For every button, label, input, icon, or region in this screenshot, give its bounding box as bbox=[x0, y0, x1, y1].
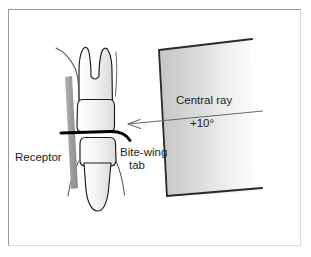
angulation-label: +10° bbox=[190, 117, 214, 129]
lower-molar-root bbox=[84, 163, 111, 211]
upper-gum-line-right bbox=[116, 52, 117, 96]
lower-molar-crown bbox=[80, 138, 116, 167]
bitewing-tab-label-line1: Bite-wing bbox=[120, 146, 167, 158]
central-ray-label: Central ray bbox=[176, 94, 232, 106]
upper-molar-roots bbox=[79, 47, 113, 106]
upper-molar-crown bbox=[77, 100, 115, 133]
bitewing-technique-figure: Receptor Bite-wing tab Central ray +10° bbox=[0, 0, 311, 257]
figure-illustration: Receptor Bite-wing tab Central ray +10° bbox=[0, 0, 311, 257]
receptor-label: Receptor bbox=[15, 151, 62, 163]
upper-molar bbox=[56, 47, 117, 132]
lower-gum-line-right bbox=[116, 161, 125, 195]
bitewing-tab-label-line2: tab bbox=[129, 159, 145, 171]
